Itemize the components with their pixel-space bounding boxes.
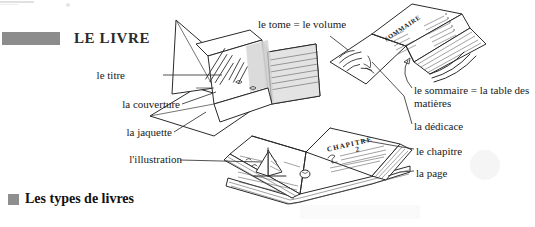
callout-sommaire: le sommaire = la table des matières <box>414 84 535 110</box>
callout-jaquette: la jaquette <box>126 126 172 139</box>
callout-titre: le titre <box>97 69 125 82</box>
page-root: LE LIVRE <box>0 0 535 227</box>
callout-chapitre: le chapitre <box>416 145 462 158</box>
callout-dedicace: la dédicace <box>414 120 463 133</box>
section-title: Les types de livres <box>25 191 134 207</box>
callout-tome: le tome = le volume <box>258 18 346 31</box>
section-bullet <box>8 194 19 205</box>
leader-line-dedicace <box>404 96 412 124</box>
callout-page: la page <box>416 167 447 180</box>
callout-couverture: la couverture <box>122 98 180 111</box>
leader-line-tome <box>330 36 348 50</box>
callout-illustration: l'illustration <box>129 153 182 166</box>
